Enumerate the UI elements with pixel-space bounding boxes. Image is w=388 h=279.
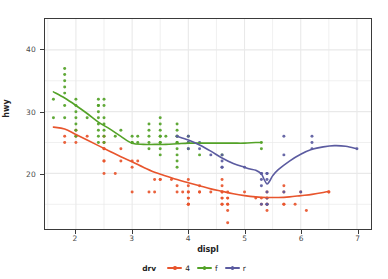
- plot-panel: [44, 18, 372, 230]
- x-tick-label: 4: [186, 234, 191, 243]
- smooth-line-f: [53, 92, 261, 145]
- y-axis-tick-labels: 203040: [14, 18, 36, 230]
- legend-key-icon: [225, 264, 240, 272]
- legend-key-icon: [167, 264, 182, 272]
- y-tick-label: 20: [26, 169, 36, 178]
- y-tick-label: 30: [26, 107, 36, 116]
- x-tick-label: 3: [129, 234, 134, 243]
- legend-item-label: r: [243, 264, 246, 273]
- legend-title: drv: [142, 264, 156, 273]
- legend-key-icon: [197, 264, 212, 272]
- x-tick-label: 6: [299, 234, 304, 243]
- y-axis-title: hwy: [2, 89, 11, 129]
- series-f: [52, 67, 263, 169]
- legend: drv 4fr: [0, 261, 388, 275]
- legend-item-r[interactable]: r: [225, 264, 246, 273]
- legend-item-f[interactable]: f: [197, 264, 218, 273]
- legend-item-label: f: [215, 264, 218, 273]
- legend-item-4[interactable]: 4: [167, 264, 190, 273]
- x-tick-label: 5: [242, 234, 247, 243]
- legend-item-label: 4: [185, 264, 190, 273]
- x-tick-label: 2: [73, 234, 78, 243]
- x-tick-label: 7: [355, 234, 360, 243]
- legend-items: 4fr: [167, 264, 246, 273]
- chart-root: 203040 234567 hwy displ drv 4fr: [0, 0, 388, 279]
- x-axis-title: displ: [44, 245, 372, 254]
- data-layer: [45, 19, 371, 229]
- y-tick-label: 40: [26, 45, 36, 54]
